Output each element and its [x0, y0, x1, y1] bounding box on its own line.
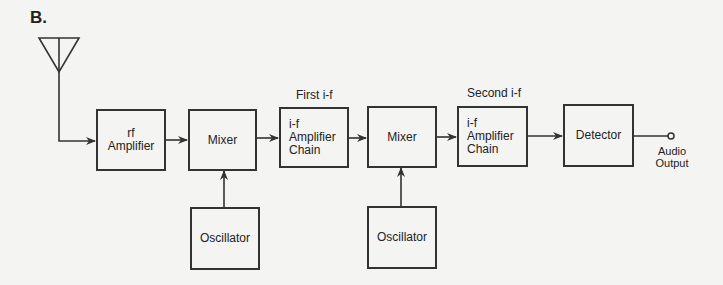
if-amplifier-2-label-1: i-f Amplifier [467, 117, 526, 143]
if-amplifier-1-label-2: Chain [289, 144, 320, 157]
if-amplifier-2-label-2: Chain [467, 143, 498, 156]
rf-amplifier-label-2: Amplifier [108, 140, 155, 153]
if-amplifier-1-label-1: i-f Amplifier [289, 118, 347, 144]
oscillator-2-block: Oscillator [367, 206, 437, 269]
oscillator-2-label: Oscillator [377, 231, 427, 244]
figure-label: B. [30, 8, 47, 28]
oscillator-1-block: Oscillator [190, 207, 260, 270]
audio-output-label-2: Output [652, 157, 692, 169]
first-if-caption: First i-f [296, 88, 333, 102]
mixer-1-label: Mixer [208, 134, 237, 147]
mixer-2-label: Mixer [387, 131, 416, 144]
oscillator-1-label: Oscillator [200, 232, 250, 245]
mixer-1-block: Mixer [188, 109, 257, 171]
if-amplifier-2-block: i-f Amplifier Chain [457, 106, 528, 167]
detector-block: Detector [563, 104, 634, 167]
terminal-circle-icon [668, 133, 674, 139]
audio-output-label-1: Audio [652, 145, 692, 157]
rf-amplifier-block: rf Amplifier [96, 109, 166, 171]
second-if-caption: Second i-f [467, 86, 521, 100]
audio-output-label: Audio Output [652, 145, 692, 169]
detector-label: Detector [576, 129, 621, 142]
if-amplifier-1-block: i-f Amplifier Chain [279, 107, 349, 168]
mixer-2-block: Mixer [367, 106, 437, 168]
antenna-icon [39, 38, 79, 72]
